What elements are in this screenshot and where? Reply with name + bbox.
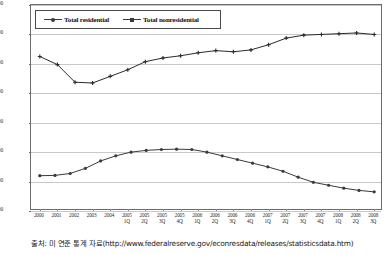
y-tick-label: 800: [0, 119, 3, 124]
data-point: [281, 170, 284, 173]
x-tick-label: 2001: [52, 212, 62, 218]
data-point: [337, 32, 341, 36]
x-tick-quarter: 2Q: [351, 218, 361, 224]
x-tick-label: 20061Q: [192, 212, 202, 224]
data-point: [161, 56, 165, 60]
x-tick-year: 2001: [52, 212, 62, 218]
data-point: [312, 181, 315, 184]
x-tick-label: 20073Q: [298, 212, 308, 224]
x-tick-label: 20082Q: [351, 212, 361, 224]
x-tick-label: 20064Q: [245, 212, 255, 224]
data-point: [327, 184, 330, 187]
series-line-total-residential: [40, 149, 374, 192]
data-point: [205, 151, 208, 154]
data-point: [108, 74, 112, 78]
x-tick-label: 20054Q: [175, 212, 185, 224]
x-tick-year: 2003: [87, 212, 97, 218]
data-point: [266, 165, 269, 168]
gridline: [31, 211, 381, 212]
x-tick-quarter: 1Q: [122, 218, 132, 224]
x-tick-label: 2003: [87, 212, 97, 218]
x-tick-quarter: 2Q: [280, 218, 290, 224]
data-point: [126, 68, 130, 72]
data-point: [99, 159, 102, 162]
data-point: [231, 50, 235, 54]
data-point: [53, 174, 56, 177]
data-point: [84, 167, 87, 170]
data-point: [91, 81, 95, 85]
x-tick-label: 20074Q: [316, 212, 326, 224]
x-tick-label: 20081Q: [333, 212, 343, 224]
y-tick-label: 200: [0, 207, 3, 212]
y-tick-mark: [29, 211, 31, 212]
data-point: [302, 33, 306, 37]
x-tick-quarter: 4Q: [316, 218, 326, 224]
data-point: [129, 151, 132, 154]
x-tick-label: 20071Q: [263, 212, 273, 224]
data-point: [236, 158, 239, 161]
data-point: [175, 148, 178, 151]
data-point: [196, 51, 200, 55]
data-point: [179, 54, 183, 58]
legend-marker-plus-icon: [123, 16, 141, 23]
series-line-total-nonresidential: [40, 33, 374, 83]
data-point: [143, 60, 147, 64]
x-tick-quarter: 1Q: [333, 218, 343, 224]
data-point: [284, 36, 288, 40]
x-tick-quarter: 1Q: [263, 218, 273, 224]
y-tick-label: 1200: [0, 60, 3, 65]
legend-marker-circle-icon: [44, 16, 62, 23]
series-layer: [31, 5, 383, 211]
x-tick-label: 20063Q: [228, 212, 238, 224]
data-point: [372, 32, 376, 36]
data-point: [373, 190, 376, 193]
data-point: [267, 43, 271, 47]
legend-item-total-residential: Total residential: [44, 16, 109, 24]
legend-label-total-nonresidential: Total nonresidential: [143, 16, 199, 24]
data-point: [249, 48, 253, 52]
x-tick-quarter: 2Q: [140, 218, 150, 224]
data-point: [114, 154, 117, 157]
plot-area: [30, 4, 382, 210]
y-tick-label: 600: [0, 148, 3, 153]
x-tick-year: 2002: [69, 212, 79, 218]
data-point: [221, 154, 224, 157]
chart-legend: Total residential Total nonresidential: [35, 10, 221, 29]
x-tick-label: 20062Q: [210, 212, 220, 224]
x-tick-quarter: 3Q: [298, 218, 308, 224]
x-tick-year: 2000: [34, 212, 44, 218]
x-tick-quarter: 1Q: [192, 218, 202, 224]
y-tick-label: 1600: [0, 1, 3, 6]
data-point: [251, 162, 254, 165]
y-tick-label: 400: [0, 178, 3, 183]
data-point: [342, 187, 345, 190]
data-point: [69, 172, 72, 175]
data-point: [214, 49, 218, 53]
data-point: [38, 174, 41, 177]
x-tick-label: 2002: [69, 212, 79, 218]
data-point: [190, 148, 193, 151]
source-caption: 출처: 미 연준 통계 자료(http://www.federalreserve…: [31, 239, 353, 249]
data-point: [319, 32, 323, 36]
chart-container: 1600140012001000800600400200 20002001200…: [0, 0, 387, 255]
data-point: [357, 189, 360, 192]
x-tick-year: 2004: [104, 212, 114, 218]
data-point: [160, 148, 163, 151]
x-tick-label: 20072Q: [280, 212, 290, 224]
y-tick-label: 1400: [0, 30, 3, 35]
x-tick-quarter: 2Q: [210, 218, 220, 224]
legend-label-total-residential: Total residential: [64, 16, 109, 24]
x-tick-label: 20083Q: [368, 212, 378, 224]
x-tick-label: 20051Q: [122, 212, 132, 224]
x-tick-label: 2004: [104, 212, 114, 218]
x-tick-label: 20053Q: [157, 212, 167, 224]
x-tick-quarter: 3Q: [368, 218, 378, 224]
x-tick-label: 20052Q: [140, 212, 150, 224]
x-tick-label: 2000: [34, 212, 44, 218]
data-point: [38, 55, 42, 59]
x-tick-quarter: 4Q: [245, 218, 255, 224]
x-tick-quarter: 4Q: [175, 218, 185, 224]
y-tick-label: 1000: [0, 89, 3, 94]
data-point: [145, 149, 148, 152]
x-tick-quarter: 3Q: [157, 218, 167, 224]
